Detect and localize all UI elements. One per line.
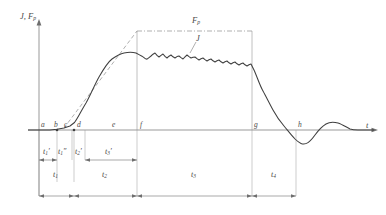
interval-label-t3-prime: t3′ [105,148,112,157]
lower-interval-arrows [39,194,296,197]
point-label-d: d [77,121,81,129]
waveform-diagram [0,0,386,215]
point-label-b: b [54,121,58,129]
upper-interval-arrows [39,158,137,161]
interval-guide-lines [39,130,296,196]
point-label-f: f [140,121,142,129]
interval-label-t4: t4 [271,171,276,180]
fp-reference-level [137,31,252,130]
interval-label-t1-prime: t1′ [43,148,50,157]
curve-label-j: J [196,34,200,43]
point-label-a: a [41,121,45,129]
point-label-h: h [298,121,302,129]
x-axis-label: t [366,121,368,130]
y-axis-arrowhead [37,19,42,26]
interval-label-t1: t1 [53,171,58,180]
interval-label-t3: t3 [191,171,196,180]
point-label-e: e [112,121,115,129]
ideal-ramp-envelope [64,31,137,128]
point-label-c: c [64,121,67,129]
curve-label-leader [190,42,196,53]
fp-level-label: Fp [192,16,200,26]
point-label-g: g [254,121,258,129]
interval-label-t2-prime: t2′ [75,148,82,157]
y-axis-label: J, Fp [20,12,36,22]
axes-group [28,19,378,196]
interval-label-t2: t2 [102,171,107,180]
interval-label-t1-dprime: t1″ [58,148,66,157]
